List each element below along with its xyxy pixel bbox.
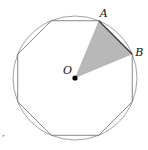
center-point-O bbox=[72, 75, 77, 80]
label-O: O bbox=[63, 64, 72, 77]
label-A: A bbox=[99, 7, 108, 20]
label-B: B bbox=[134, 46, 143, 59]
stray-mark: ’ bbox=[2, 133, 5, 142]
shaded-triangle-OAB bbox=[75, 21, 132, 78]
octagon-diagram: O A B ’ bbox=[0, 0, 148, 150]
